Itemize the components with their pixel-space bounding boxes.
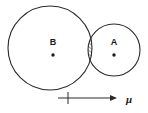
circle-b-label: B bbox=[50, 37, 57, 47]
figure-canvas: B A μ bbox=[0, 0, 148, 113]
circle-a-center-dot bbox=[112, 53, 115, 56]
circle-b-outline bbox=[8, 6, 92, 90]
circle-a-label: A bbox=[111, 37, 118, 47]
circle-a-outline bbox=[88, 24, 140, 76]
mu-axis-arrowhead bbox=[110, 95, 117, 101]
circle-b-center-dot bbox=[51, 53, 54, 56]
mu-axis-label: μ bbox=[125, 93, 132, 105]
venn-diagram-svg: B A μ bbox=[0, 0, 148, 113]
